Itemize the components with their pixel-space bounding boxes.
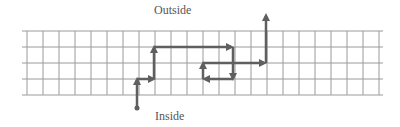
grid-path-diagram: Outside Inside bbox=[0, 0, 400, 127]
outside-label: Outside bbox=[154, 3, 191, 18]
inside-label: Inside bbox=[155, 109, 184, 124]
start-dot-icon bbox=[135, 106, 140, 111]
diagram-canvas bbox=[0, 0, 400, 127]
grid bbox=[22, 31, 383, 95]
